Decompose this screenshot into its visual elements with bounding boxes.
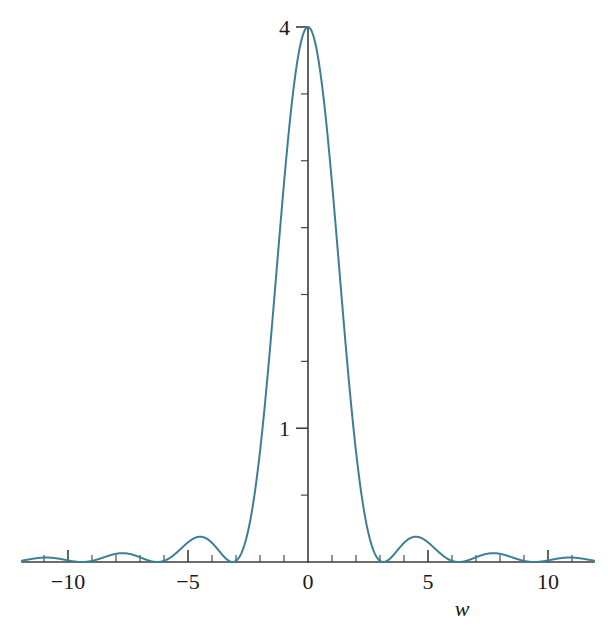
x-axis-title: w	[455, 596, 470, 621]
y-axis-minor-ticks	[301, 94, 308, 495]
x-tick-label: 0	[303, 569, 314, 594]
y-tick-label: 1	[279, 416, 290, 441]
x-tick-label: 10	[537, 569, 559, 594]
x-tick-label: 5	[423, 569, 434, 594]
x-axis-tick-labels: −10−50510	[51, 569, 559, 594]
x-tick-label: −5	[176, 569, 199, 594]
x-tick-label: −10	[51, 569, 85, 594]
sinc-squared-plot: −10−50510 14 w	[0, 0, 608, 633]
y-tick-label: 4	[279, 15, 290, 40]
chart-page: −10−50510 14 w	[0, 0, 608, 633]
